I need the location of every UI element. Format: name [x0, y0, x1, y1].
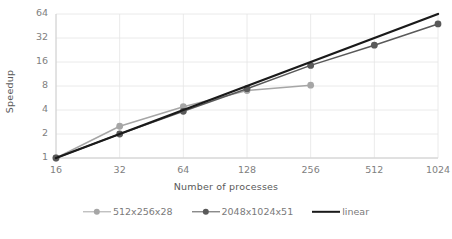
y-axis-tick-label: 8	[26, 79, 48, 90]
x-axis-tick-label: 32	[100, 164, 140, 175]
legend-label-series-1: 512x256x28	[111, 206, 173, 217]
y-axis-tick-label: 2	[26, 127, 48, 138]
legend-marker-icon	[192, 207, 220, 217]
chart-container: Speedup Number of processes 1248163264 1…	[0, 0, 452, 239]
legend-item-series-2[interactable]: 2048x1024x51	[192, 206, 294, 217]
series-marker-2	[371, 42, 378, 49]
x-axis-tick-label: 16	[36, 164, 76, 175]
y-axis-tick-label: 16	[26, 55, 48, 66]
x-axis-tick-label: 256	[291, 164, 331, 175]
y-axis-tick-label: 64	[26, 7, 48, 18]
x-axis-tick-label: 1024	[418, 164, 452, 175]
legend-label-series-3: linear	[340, 206, 369, 217]
series-marker-1	[307, 82, 314, 89]
x-axis-title: Number of processes	[0, 181, 452, 192]
y-axis-tick-label: 4	[26, 103, 48, 114]
x-axis-tick-label: 64	[163, 164, 203, 175]
legend-item-series-3[interactable]: linear	[312, 206, 369, 217]
y-axis-tick-label: 1	[26, 151, 48, 162]
legend-line-icon	[312, 207, 340, 217]
legend-item-series-1[interactable]: 512x256x28	[83, 206, 173, 217]
legend-label-series-2: 2048x1024x51	[220, 206, 294, 217]
legend-marker-icon	[83, 207, 111, 217]
chart-plot-area	[0, 0, 452, 239]
x-axis-tick-label: 512	[354, 164, 394, 175]
x-axis-tick-label: 128	[227, 164, 267, 175]
y-axis-title: Speedup	[4, 62, 15, 122]
chart-legend: 512x256x28 2048x1024x51 linear	[0, 206, 452, 217]
series-marker-2	[435, 21, 442, 28]
series-marker-1	[116, 123, 123, 130]
y-axis-tick-label: 32	[26, 31, 48, 42]
